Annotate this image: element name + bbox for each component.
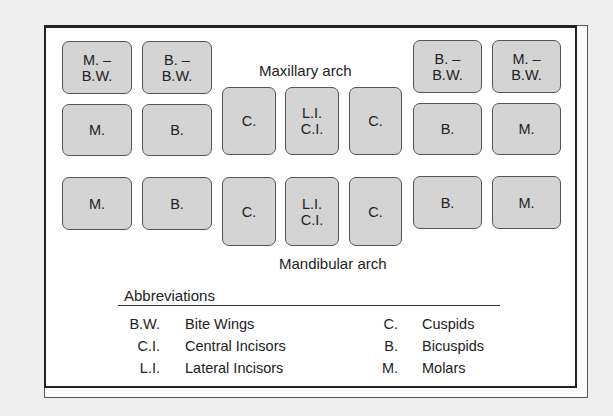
tooth-label: C.: [242, 204, 257, 220]
mandibular-tooth: C.: [349, 177, 402, 246]
maxillary-tooth: B.: [142, 104, 212, 156]
bitewing-tooth: B. – B.W.: [142, 41, 212, 94]
tooth-label: C.: [368, 204, 383, 220]
abbr-code: L.I.: [110, 360, 160, 376]
tooth-label: B.: [441, 121, 455, 137]
tooth-label: B.: [170, 122, 184, 138]
abbr-code: B.W.: [110, 316, 160, 332]
bitewing-tooth: M. – B.W.: [492, 40, 561, 93]
abbr-desc: Molars: [422, 360, 466, 376]
abbr-desc: Central Incisors: [185, 338, 286, 354]
maxillary-tooth: C.: [222, 87, 276, 155]
bitewing-tooth: M. – B.W.: [62, 41, 132, 94]
tooth-label: B.: [170, 196, 184, 212]
abbr-desc: Bicuspids: [422, 338, 484, 354]
tooth-label: B.: [441, 195, 455, 211]
abbr-desc: Lateral Incisors: [185, 360, 283, 376]
abbreviations-title: Abbreviations: [124, 287, 215, 304]
tooth-label: M.: [89, 122, 105, 138]
tooth-label: M.: [518, 121, 534, 137]
abbreviations-divider: [118, 305, 500, 306]
mandibular-tooth: C.: [222, 177, 276, 246]
mandibular-arch-label: Mandibular arch: [279, 255, 387, 272]
bitewing-tooth: B. – B.W.: [413, 40, 482, 93]
abbr-code: B.: [348, 338, 398, 354]
tooth-label: L.I. C.I.: [301, 196, 324, 228]
mandibular-tooth: M.: [492, 176, 561, 229]
tooth-label: B. – B.W.: [432, 51, 463, 83]
maxillary-tooth: C.: [349, 87, 402, 155]
mandibular-tooth: B.: [413, 176, 482, 229]
tooth-label: M. – B.W.: [82, 52, 113, 84]
maxillary-arch-label: Maxillary arch: [259, 62, 352, 79]
tooth-label: C.: [242, 113, 257, 129]
mandibular-tooth: L.I. C.I.: [285, 177, 339, 246]
tooth-label: M.: [89, 196, 105, 212]
tooth-label: M. – B.W.: [511, 51, 542, 83]
tooth-label: B. – B.W.: [162, 52, 193, 84]
maxillary-tooth: B.: [413, 103, 482, 155]
maxillary-tooth: M.: [492, 103, 561, 155]
maxillary-tooth: L.I. C.I.: [285, 87, 339, 155]
tooth-label: L.I. C.I.: [301, 105, 324, 137]
mandibular-tooth: M.: [62, 177, 132, 230]
abbr-code: C.I.: [110, 338, 160, 354]
abbr-desc: Bite Wings: [185, 316, 254, 332]
abbr-desc: Cuspids: [422, 316, 474, 332]
tooth-label: M.: [518, 195, 534, 211]
abbr-code: M.: [348, 360, 398, 376]
tooth-label: C.: [368, 113, 383, 129]
mandibular-tooth: B.: [142, 177, 212, 230]
maxillary-tooth: M.: [62, 104, 132, 156]
abbr-code: C.: [348, 316, 398, 332]
